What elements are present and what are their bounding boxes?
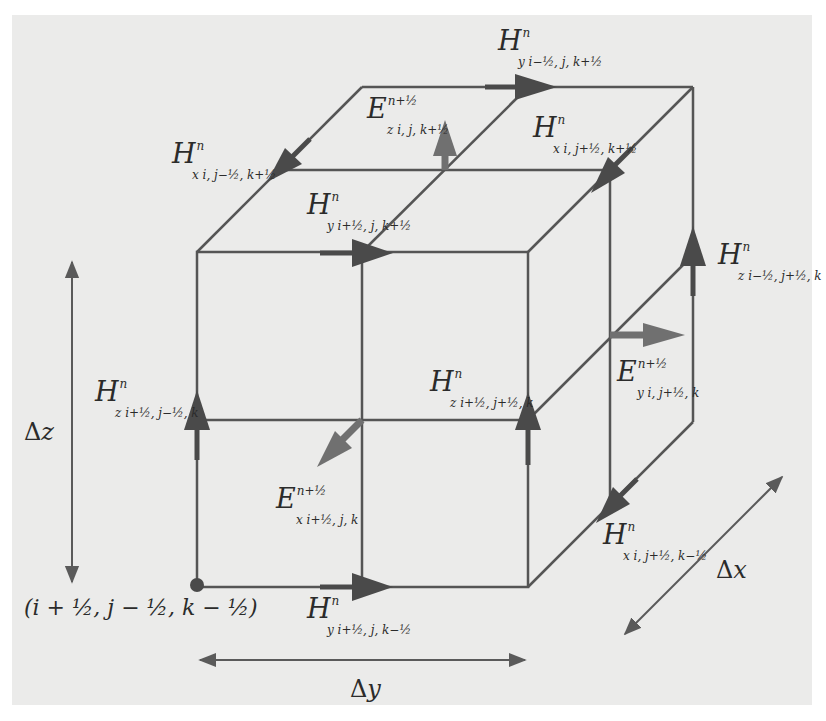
label-ex-front: En+½ x i+½, j, k <box>276 485 358 526</box>
label-base: H <box>533 112 557 143</box>
label-sub: y i+½, j, k+½ <box>327 220 411 232</box>
label-delta-z: Δz <box>24 420 54 444</box>
label-hz-front-right: Hn z i+½, j+½, k <box>430 368 534 409</box>
label-sup: n+½ <box>638 357 667 371</box>
label-delta-y: Δy <box>350 677 381 701</box>
label-sub: y i, j+½, k <box>637 387 699 399</box>
origin-coordinate-label: (i + ½, j − ½, k − ½) <box>24 597 258 619</box>
label-sub: x i, j−½, k+½ <box>192 169 276 181</box>
label-sup: n <box>455 367 463 381</box>
label-sup: n <box>558 113 566 127</box>
label-base: H <box>718 239 742 270</box>
label-base: E <box>367 93 387 124</box>
label-base: E <box>617 356 637 387</box>
label-ez-top: En+½ z i, j, k+½ <box>367 95 449 136</box>
label-sup: n <box>523 26 531 40</box>
label-ey-right: En+½ y i, j+½, k <box>617 358 699 399</box>
label-base: E <box>276 483 296 514</box>
arrow-hy-top-back <box>485 74 557 100</box>
label-base: H <box>430 366 454 397</box>
delta-symbol: Δ <box>716 556 733 584</box>
label-sub: z i+½, j+½, k <box>450 397 534 409</box>
origin-node <box>190 578 204 592</box>
label-sub: z i, j, k+½ <box>387 124 449 136</box>
delta-variable: x <box>733 556 747 584</box>
label-base: H <box>95 376 119 407</box>
label-hy-top-front: Hn y i+½, j, k+½ <box>307 191 411 232</box>
label-sup: n <box>197 139 205 153</box>
arrow-ex-front <box>317 420 362 467</box>
label-base: H <box>603 519 627 550</box>
label-hz-back-right: Hn z i−½, j+½, k <box>718 241 822 282</box>
arrow-hx-bottom-right <box>596 479 637 523</box>
label-sub: y i−½, j, k+½ <box>518 56 602 68</box>
label-sup: n <box>628 520 636 534</box>
label-sub: z i+½, j−½, k <box>115 407 199 419</box>
label-hx-top-right: Hn x i, j+½, k+½ <box>533 114 637 155</box>
label-base: H <box>172 138 196 169</box>
label-sub: x i+½, j, k <box>296 514 358 526</box>
label-hy-top-back: Hn y i−½, j, k+½ <box>498 27 602 68</box>
label-hy-bottom-front: Hn y i+½, j, k−½ <box>307 595 411 636</box>
label-sup: n <box>743 240 751 254</box>
label-base: H <box>498 25 522 56</box>
arrow-hy-top-front <box>320 239 393 267</box>
arrow-hz-back-right <box>680 226 706 296</box>
label-sup: n <box>332 594 340 608</box>
e-field-arrows <box>317 120 685 467</box>
label-sub: z i−½, j+½, k <box>738 270 822 282</box>
label-sub: y i+½, j, k−½ <box>327 624 411 636</box>
label-hx-top-left: Hn x i, j−½, k+½ <box>172 140 276 181</box>
label-base: H <box>307 189 331 220</box>
label-sup: n <box>120 377 128 391</box>
label-sub: x i, j+½, k+½ <box>553 143 637 155</box>
label-base: H <box>307 593 331 624</box>
delta-variable: z <box>41 418 54 446</box>
delta-variable: y <box>367 675 381 703</box>
label-sup: n <box>332 190 340 204</box>
delta-symbol: Δ <box>350 675 367 703</box>
label-sup: n+½ <box>388 94 417 108</box>
label-sup: n+½ <box>297 484 326 498</box>
label-sub: x i, j+½, k−½ <box>623 550 707 562</box>
label-delta-x: Δx <box>716 558 747 582</box>
label-hz-front-left: Hn z i+½, j−½, k <box>95 378 199 419</box>
delta-symbol: Δ <box>24 418 41 446</box>
label-hx-bottom-right: Hn x i, j+½, k−½ <box>603 521 707 562</box>
